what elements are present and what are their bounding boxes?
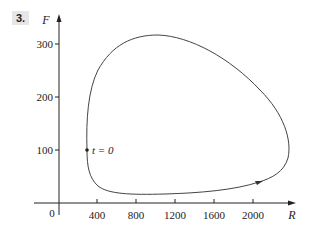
x-tick-800: 800 (128, 209, 145, 221)
start-point-marker (85, 148, 89, 152)
x-axis-label: R (287, 208, 296, 222)
direction-arrow-icon (255, 181, 263, 185)
y-axis-label: F (41, 13, 50, 27)
t0-label: t = 0 (92, 144, 114, 156)
x-tick-400: 400 (89, 209, 106, 221)
x-tick-1200: 1200 (164, 209, 187, 221)
origin-label: 0 (49, 207, 55, 219)
x-tick-1600: 1600 (203, 209, 226, 221)
trajectory-curve (87, 35, 289, 194)
y-tick-100: 100 (37, 144, 54, 156)
x-axis-arrow-icon (288, 201, 296, 206)
x-tick-2000: 2000 (242, 209, 265, 221)
y-axis-arrow-icon (57, 14, 62, 22)
phase-plot: 300 200 100 400 800 1200 1600 2000 0 R F… (0, 0, 316, 242)
y-tick-200: 200 (37, 91, 54, 103)
y-tick-300: 300 (37, 38, 54, 50)
